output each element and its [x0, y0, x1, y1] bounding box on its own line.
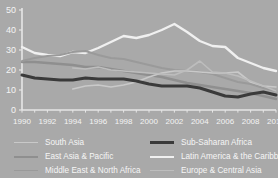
x-axis-labels: 1990199219941996199820002002200420062008… [0, 117, 278, 129]
x-axis-tick-label: 2006 [216, 117, 234, 126]
legend-item[interactable]: South Asia [14, 136, 84, 149]
x-axis-tick-label: 2010 [267, 117, 278, 126]
plot-area: 01020304050 [0, 6, 278, 118]
chart-screenshot: 01020304050 1990199219941996199820002002… [0, 0, 278, 178]
legend-item[interactable]: Europe & Central Asia [150, 164, 262, 177]
x-axis-tick-label: 2002 [165, 117, 183, 126]
legend-swatch-icon [14, 142, 38, 143]
x-axis-tick-label: 2004 [191, 117, 209, 126]
y-axis-tick-label: 40 [6, 25, 16, 35]
legend-item[interactable]: Sub-Saharan Africa [150, 136, 252, 149]
legend-swatch-icon [150, 156, 174, 158]
x-axis-tick-label: 1994 [64, 117, 82, 126]
legend-swatch-icon [150, 170, 174, 171]
chart-title [0, 0, 278, 3]
y-axis-tick-label: 0 [11, 105, 16, 115]
x-axis-tick-label: 2000 [140, 117, 158, 126]
x-axis-tick-label: 1998 [115, 117, 133, 126]
y-axis-tick-label: 50 [6, 6, 16, 15]
y-axis-tick-label: 20 [6, 65, 16, 75]
legend-swatch-icon [14, 170, 38, 171]
x-axis-tick-label: 1990 [13, 117, 31, 126]
x-axis-tick-label: 2008 [242, 117, 260, 126]
legend-swatch-icon [150, 141, 174, 144]
y-axis-tick-label: 30 [6, 45, 16, 55]
line-chart: 01020304050 [0, 6, 278, 118]
legend-label: Middle East & North Africa [45, 164, 141, 177]
legend-label: Sub-Saharan Africa [181, 136, 252, 149]
y-axis-tick-label: 10 [6, 85, 16, 95]
legend-label: Latin America & the Caribbean [181, 150, 278, 163]
series-line-sub-saharan-africa [22, 75, 276, 97]
x-axis-tick-label: 1996 [89, 117, 107, 126]
legend-label: Europe & Central Asia [181, 164, 262, 177]
legend-item[interactable]: East Asia & Pacific [14, 150, 113, 163]
legend-label: East Asia & Pacific [45, 150, 113, 163]
x-axis-tick-label: 1992 [38, 117, 56, 126]
legend-item[interactable]: Middle East & North Africa [14, 164, 141, 177]
legend-label: South Asia [45, 136, 84, 149]
chart-legend: South AsiaEast Asia & PacificMiddle East… [0, 136, 278, 178]
legend-swatch-icon [14, 156, 38, 158]
legend-item[interactable]: Latin America & the Caribbean [150, 150, 278, 163]
